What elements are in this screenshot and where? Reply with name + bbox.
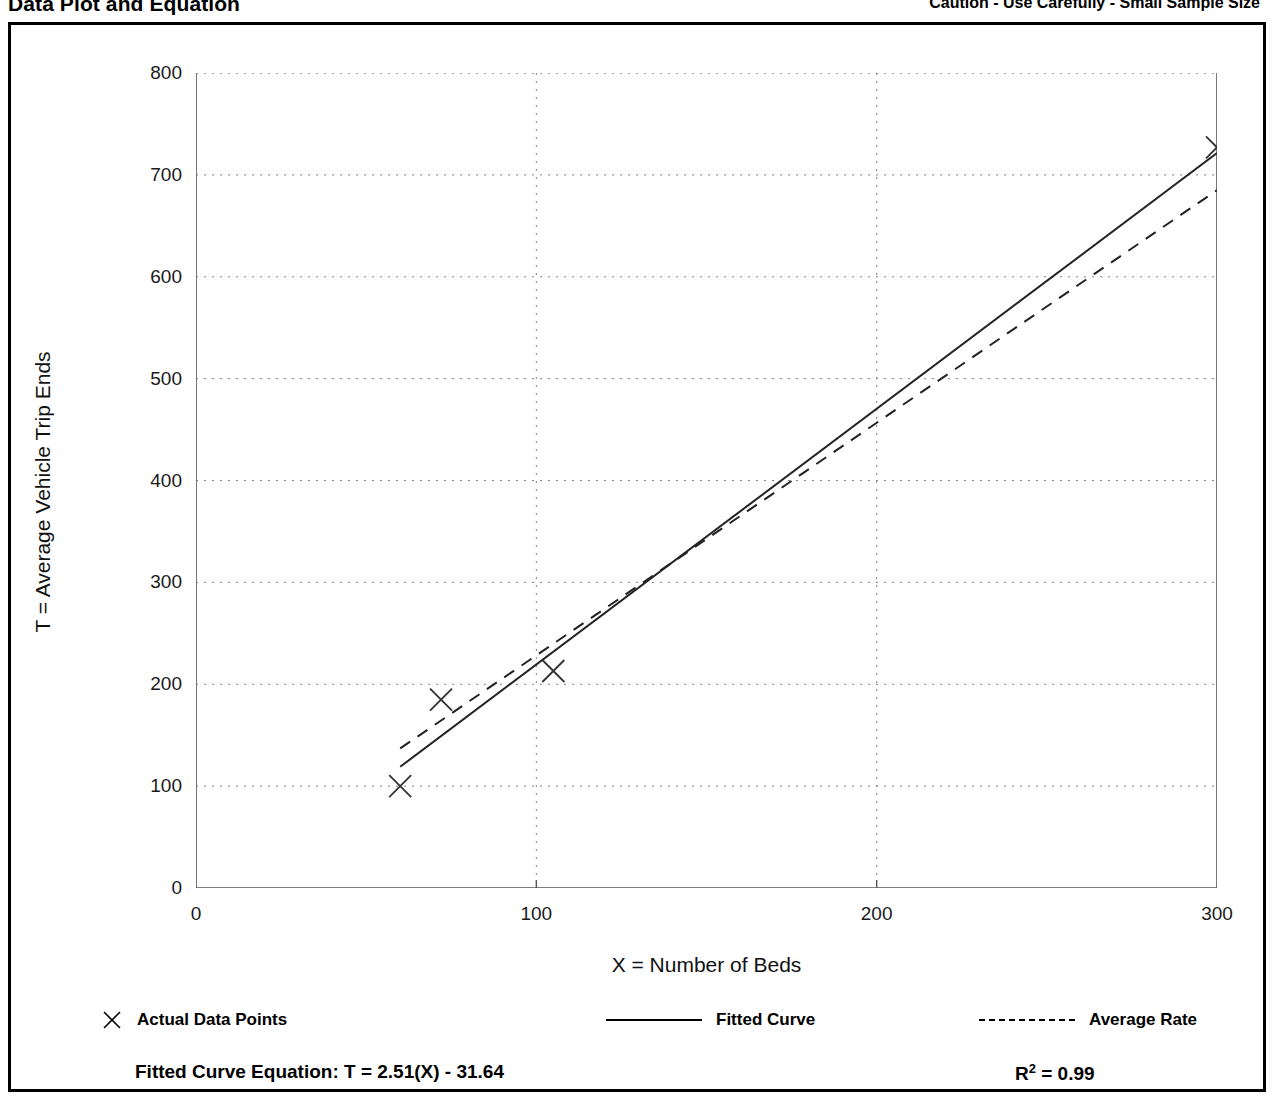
legend-label-average-rate: Average Rate [1089, 1010, 1197, 1030]
page-header: Data Plot and Equation Caution - Use Car… [0, 0, 1276, 20]
legend-item-fitted-curve: Fitted Curve [606, 1003, 815, 1037]
page-title: Data Plot and Equation [8, 0, 240, 16]
chart-page: Data Plot and Equation Caution - Use Car… [0, 0, 1276, 1100]
r-squared-exponent: 2 [1029, 1061, 1036, 1076]
y-axis-tick-label: 0 [171, 877, 182, 899]
legend-item-actual-data-points: Actual Data Points [101, 1003, 287, 1037]
x-axis-title: X = Number of Beds [196, 953, 1217, 977]
r-squared-value: R2 = 0.99 [1015, 1061, 1095, 1085]
legend-label-actual-data-points: Actual Data Points [137, 1010, 287, 1030]
solid-line-icon [606, 1019, 702, 1021]
legend-item-average-rate: Average Rate [979, 1003, 1197, 1037]
y-axis-tick-label: 400 [150, 470, 182, 492]
r-squared-prefix: R [1015, 1063, 1029, 1084]
x-axis-tick-label: 300 [1201, 903, 1233, 925]
y-axis-tick-label: 800 [150, 62, 182, 84]
x-axis-tick-label: 100 [520, 903, 552, 925]
chart-frame: T = Average Vehicle Trip Ends 0100200300… [8, 22, 1266, 1092]
y-axis-title: T = Average Vehicle Trip Ends [31, 212, 55, 772]
data-point-marker [389, 775, 411, 797]
data-point-marker [542, 660, 564, 682]
plot-area [196, 73, 1217, 888]
dashed-line-icon [979, 1019, 1075, 1021]
equation-row: Fitted Curve Equation: T = 2.51(X) - 31.… [135, 1061, 1235, 1095]
chart-legend: Actual Data Points Fitted Curve Average … [101, 1003, 1231, 1037]
y-axis-tick-label: 600 [150, 266, 182, 288]
fitted-curve-equation: Fitted Curve Equation: T = 2.51(X) - 31.… [135, 1061, 504, 1083]
y-axis-tick-label: 500 [150, 368, 182, 390]
y-axis-tick-labels: 0100200300400500600700800 [99, 73, 182, 888]
x-axis-tick-label: 200 [861, 903, 893, 925]
series-line-average-rate [400, 190, 1217, 748]
r-squared-number: = 0.99 [1036, 1063, 1095, 1084]
cross-marker-icon [101, 1009, 123, 1031]
plot-svg [196, 73, 1217, 888]
y-axis-tick-label: 200 [150, 673, 182, 695]
legend-label-fitted-curve: Fitted Curve [716, 1010, 815, 1030]
y-axis-tick-label: 100 [150, 775, 182, 797]
caution-note: Caution - Use Carefully - Small Sample S… [929, 0, 1260, 12]
data-point-marker [430, 689, 452, 711]
y-axis-tick-label: 300 [150, 571, 182, 593]
series-line-fitted-curve [400, 153, 1217, 767]
x-axis-tick-labels: 0100200300 [196, 903, 1217, 933]
x-axis-tick-label: 0 [191, 903, 202, 925]
y-axis-tick-label: 700 [150, 164, 182, 186]
